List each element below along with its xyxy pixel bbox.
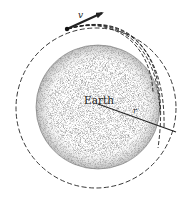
velocity-arrow xyxy=(67,13,102,29)
projectile xyxy=(65,27,69,31)
velocity-label: v xyxy=(78,10,83,20)
earth-label: Earth xyxy=(84,94,114,106)
orbit-diagram: Earth v r xyxy=(0,0,192,203)
earth xyxy=(36,45,160,169)
